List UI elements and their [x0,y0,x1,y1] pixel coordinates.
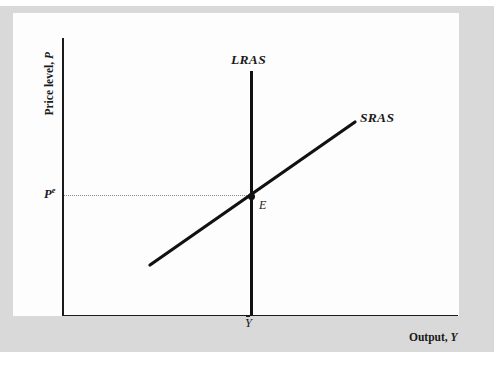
price-label-base: P [44,187,52,201]
x-axis-title-text: Output, [409,331,451,343]
potential-output-tick-label: Y [245,317,252,330]
y-axis-title-text: Price level, [43,59,55,116]
equilibrium-price-label: Pe [44,188,55,201]
output-label-with-overbar: Y [245,317,252,330]
equilibrium-point-label: E [259,199,266,211]
y-axis-line [62,38,64,316]
x-axis-title-variable: Y [451,331,458,343]
price-label-superscript: e [52,185,56,195]
equilibrium-point-marker [248,193,255,200]
y-axis-title: Price level, P [44,24,56,144]
lras-curve-label: LRAS [231,53,266,67]
x-axis-title: Output, Y [409,332,458,344]
figure-canvas: LRAS SRAS E Pe Y Price level, P Output, … [0,0,494,375]
y-axis-title-variable: P [43,52,55,59]
x-axis-line [62,315,458,317]
sras-curve [140,110,370,280]
sras-curve-label: SRAS [360,111,394,125]
